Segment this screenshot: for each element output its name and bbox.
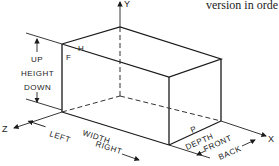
up-label: UP [31,55,43,64]
y-axis: Y [120,0,130,96]
f-label: F [66,53,71,62]
z-axis-label: Z [2,124,8,134]
y-axis-label: Y [124,0,130,9]
x-axis-label: X [268,134,274,144]
box-visible-edges [62,27,221,145]
box-hidden-edges [62,96,221,121]
width-dimension: LEFT WIDTH RIGHT [28,121,139,160]
height-label: HEIGHT [21,69,54,78]
left-label: LEFT [48,129,71,144]
down-label: DOWN [24,83,51,92]
h-label: H [78,44,84,53]
p-label: P [189,124,198,135]
caption-fragment: version in orde [206,0,278,12]
isometric-box-diagram: version in orde Y Z X [0,0,279,166]
depth-dimension: P DEPTH FRONT BACK [169,124,255,162]
height-dimension: UP HEIGHT DOWN [21,33,62,110]
